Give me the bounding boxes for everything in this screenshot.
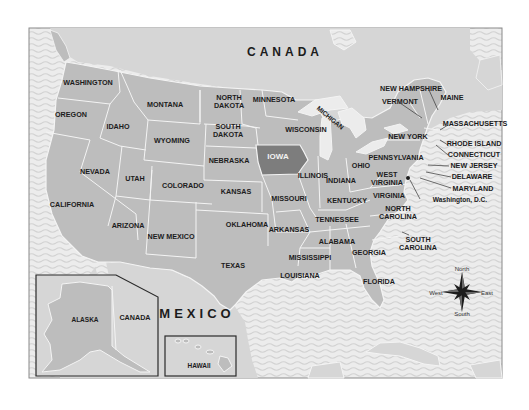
label-north-carolina-line2: CAROLINA xyxy=(379,212,417,221)
label-nebraska: NEBRASKA xyxy=(209,157,250,165)
label-delaware: DELAWARE xyxy=(452,173,493,181)
label-new-york: NEW YORK xyxy=(388,133,427,141)
label-south-dakota: SOUTHDAKOTA xyxy=(213,123,243,139)
label-north-carolina: NORTHCAROLINA xyxy=(379,205,417,221)
compass-west-label: West xyxy=(429,290,443,296)
compass-east-label: East xyxy=(481,290,493,296)
label-south-dakota-line2: DAKOTA xyxy=(213,130,243,139)
label-indiana: INDIANA xyxy=(326,177,356,185)
label-arizona: ARIZONA xyxy=(112,222,145,230)
label-connecticut: CONNECTICUT xyxy=(448,151,500,159)
label-west-virginia: WESTVIRGINIA xyxy=(371,171,403,187)
label-canada-inset: CANADA xyxy=(119,314,150,322)
label-wyoming: WYOMING xyxy=(154,137,190,145)
label-vermont: VERMONT xyxy=(382,98,418,106)
hawaii-inset xyxy=(165,336,236,376)
label-nevada: NEVADA xyxy=(80,168,110,176)
label-idaho: IDAHO xyxy=(106,123,129,131)
label-georgia: GEORGIA xyxy=(352,249,386,257)
label-new-jersey: NEW JERSEY xyxy=(450,162,497,170)
label-minnesota: MINNESOTA xyxy=(253,96,296,104)
label-oregon: OREGON xyxy=(55,111,87,119)
label-massachusetts: MASSACHUSETTS xyxy=(443,120,508,128)
label-maine: MAINE xyxy=(440,94,463,102)
label-ohio: OHIO xyxy=(352,162,370,170)
label-south-carolina: SOUTHCAROLINA xyxy=(399,236,437,252)
label-florida: FLORIDA xyxy=(363,278,395,286)
alaska-inset xyxy=(36,275,158,376)
label-west-virginia-line2: VIRGINIA xyxy=(371,178,403,187)
label-kentucky: KENTUCKY xyxy=(327,197,367,205)
label-wisconsin: WISCONSIN xyxy=(285,126,327,134)
label-oklahoma: OKLAHOMA xyxy=(226,221,268,229)
capital-star-icon xyxy=(406,176,410,180)
label-washington: WASHINGTON xyxy=(63,79,112,87)
label-virginia: VIRGINIA xyxy=(373,192,405,200)
label-maryland: MARYLAND xyxy=(453,185,494,193)
label-kansas: KANSAS xyxy=(221,188,251,196)
label-alaska: ALASKA xyxy=(71,316,98,324)
label-mississippi: MISSISSIPPI xyxy=(289,254,332,262)
label-illinois: ILLINOIS xyxy=(298,172,328,180)
label-rhode-island: RHODE ISLAND xyxy=(447,140,502,148)
label-mexico: MEXICO xyxy=(159,310,234,318)
label-utah: UTAH xyxy=(125,175,144,183)
label-north-dakota: NORTHDAKOTA xyxy=(214,94,244,110)
label-iowa: IOWA xyxy=(267,153,288,161)
label-south-carolina-line2: CAROLINA xyxy=(399,243,437,252)
label-pennsylvania: PENNSYLVANIA xyxy=(368,154,423,162)
label-louisiana: LOUISIANA xyxy=(280,272,320,280)
label-canada: CANADA xyxy=(247,48,323,56)
label-california: CALIFORNIA xyxy=(50,201,94,209)
label-new-hampshire: NEW HAMPSHIRE xyxy=(380,85,442,93)
compass-north-label: North xyxy=(455,266,470,272)
label-hawaii: HAWAII xyxy=(187,362,210,370)
label-montana: MONTANA xyxy=(147,101,183,109)
label-colorado: COLORADO xyxy=(162,182,204,190)
label-missouri: MISSOURI xyxy=(271,195,307,203)
label-alabama: ALABAMA xyxy=(319,238,355,246)
label-arkansas: ARKANSAS xyxy=(269,226,310,234)
label-washington-dc: Washington, D.C. xyxy=(433,196,487,204)
label-north-dakota-line2: DAKOTA xyxy=(214,101,244,110)
label-new-mexico: NEW MEXICO xyxy=(147,233,194,241)
label-tennessee: TENNESSEE xyxy=(315,216,359,224)
compass-south-label: South xyxy=(454,311,470,317)
label-texas: TEXAS xyxy=(221,262,245,270)
